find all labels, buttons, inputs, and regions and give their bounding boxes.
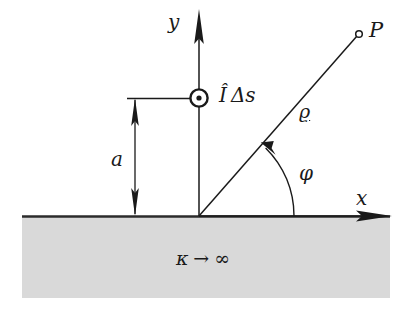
y-axis-label: y xyxy=(168,12,179,32)
current-length-element-symbol: Δs xyxy=(231,83,256,107)
conductivity-limit-label: κ→∞ xyxy=(0,249,406,268)
infinity-symbol: ∞ xyxy=(214,247,230,269)
current-out-of-page-dot-icon xyxy=(196,95,201,100)
radial-distance-label: ϱ xyxy=(299,102,310,121)
phi-arc-arrowhead-icon xyxy=(261,141,276,155)
arrow-right-icon: → xyxy=(193,247,209,269)
height-dimension xyxy=(127,98,191,216)
angle-indicator xyxy=(261,141,294,216)
radial-ray xyxy=(199,31,362,216)
field-point-label: P xyxy=(369,20,383,41)
height-label: a xyxy=(111,149,123,169)
current-element-marker xyxy=(190,89,207,106)
phi-arc xyxy=(266,148,294,216)
current-symbol: Î xyxy=(219,83,227,107)
x-axis-label: x xyxy=(356,188,367,208)
current-element-label: ÎΔs xyxy=(219,85,256,105)
angle-label: φ xyxy=(299,163,313,183)
y-axis xyxy=(194,9,204,216)
physics-diagram: y x P a ϱ φ ÎΔs κ→∞ xyxy=(0,0,406,312)
rho-line xyxy=(199,36,357,216)
field-point-marker xyxy=(356,31,363,38)
conductivity-symbol: κ xyxy=(176,247,188,269)
